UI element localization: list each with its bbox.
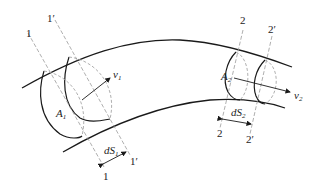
label-section-2p-bottom: 2′ bbox=[246, 134, 254, 145]
label-A2: A2 bbox=[221, 71, 231, 84]
cut-line-1p bbox=[55, 20, 130, 155]
tube-upper-wall bbox=[22, 40, 292, 88]
label-section-1-bottom: 1 bbox=[103, 171, 109, 182]
section-1p-face bbox=[65, 57, 110, 121]
cut-line-1 bbox=[28, 33, 104, 167]
label-section-1p-bottom: 1′ bbox=[130, 156, 138, 167]
label-v1: v1 bbox=[113, 69, 121, 82]
label-dS2: dS2 bbox=[231, 107, 246, 120]
section-2p-face bbox=[254, 60, 265, 104]
label-dS1: dS1 bbox=[104, 145, 119, 158]
label-v2: v2 bbox=[294, 90, 302, 103]
v1-arrow bbox=[82, 78, 110, 100]
section-1-face bbox=[41, 71, 82, 138]
label-section-2-bottom: 2 bbox=[217, 128, 223, 139]
label-A1: A1 bbox=[56, 108, 66, 121]
label-section-1-top: 1 bbox=[26, 28, 32, 39]
label-section-2-top: 2 bbox=[240, 15, 246, 26]
label-section-2p-top: 2′ bbox=[268, 24, 276, 35]
label-section-1p-top: 1′ bbox=[47, 13, 55, 24]
